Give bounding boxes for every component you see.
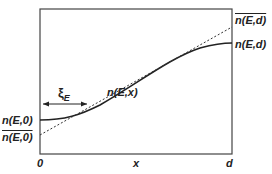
label-n-E-d: n(E,d) [235,39,266,50]
label-x-end: d [226,158,233,169]
label-nbar-E-0: n(E,0) [2,132,33,143]
label-xi: ξE [58,86,70,103]
label-nbar-E-d: n(E,d) [235,15,266,26]
linear-extrapolation-line [40,27,232,135]
arrow-head-left-icon [43,102,49,107]
label-x-origin: 0 [37,158,43,169]
label-n-E-x: n(E,x) [107,87,138,98]
label-n-E-0: n(E,0) [2,115,33,126]
label-x-axis: x [133,158,139,169]
xi-subscript: E [64,93,70,103]
arrow-head-right-icon [81,102,87,107]
